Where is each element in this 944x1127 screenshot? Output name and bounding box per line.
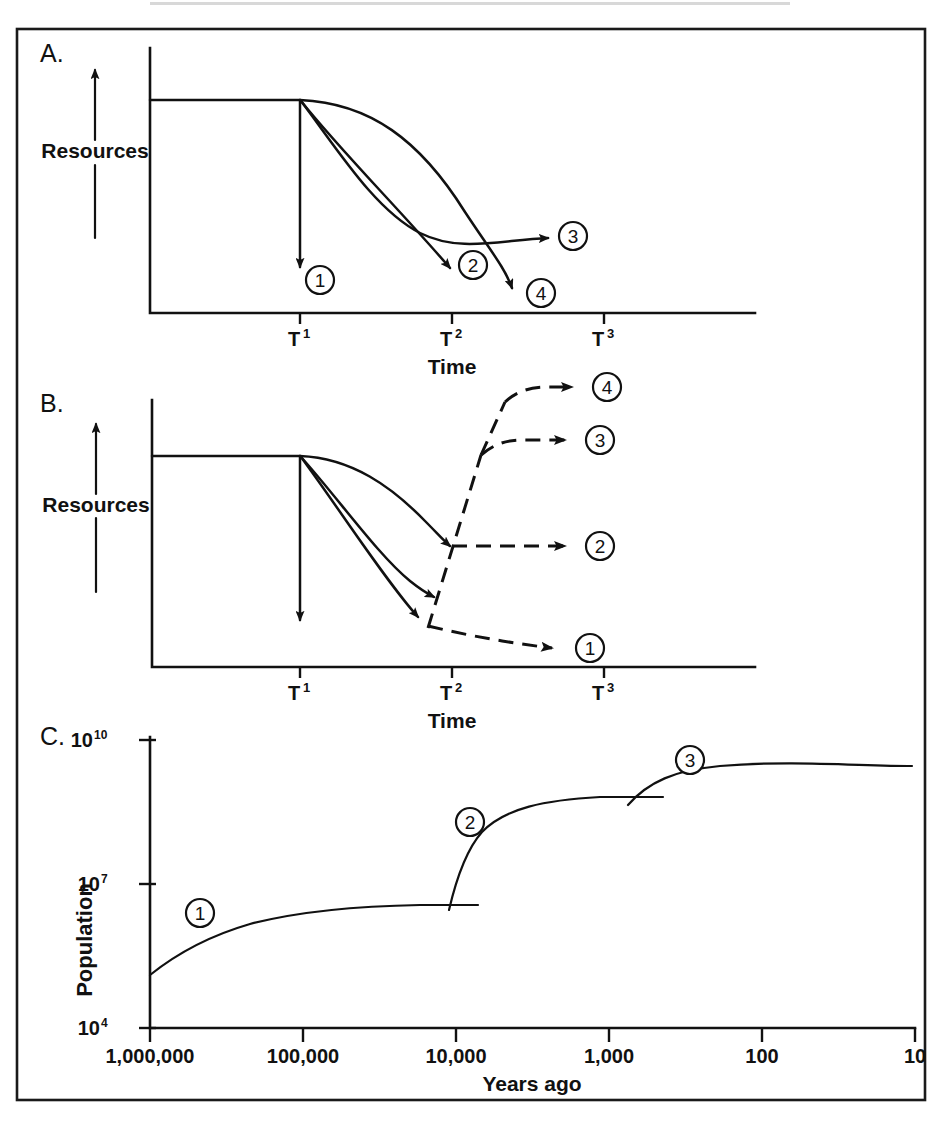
panel-b-callout-1: 1 <box>576 634 604 662</box>
panel-c-ylabel: Population <box>72 883 97 997</box>
svg-text:2: 2 <box>595 536 606 557</box>
panel-b-decline-steep <box>301 457 418 617</box>
panel-b-tick-label-t2: T 2 <box>440 680 462 704</box>
svg-text:10: 10 <box>78 873 100 895</box>
panel-b-tick-label-t3: T 3 <box>592 680 614 704</box>
scan-artifact <box>150 2 790 5</box>
panel-b-tick-label-t1: T 1 <box>288 680 310 704</box>
panel-c-xlabel-100: 100 <box>745 1045 778 1067</box>
svg-text:10: 10 <box>71 729 93 751</box>
svg-text:7: 7 <box>101 872 108 886</box>
panel-a-tick-label-t2: T 2 <box>440 326 462 350</box>
svg-text:3: 3 <box>685 750 696 771</box>
panel-c-callout-2: 2 <box>456 808 484 836</box>
panel-c: C. Population 10 10 10 7 10 4 1,000,000 <box>40 722 926 1095</box>
panel-a-tick-label-t1: T 1 <box>288 326 310 350</box>
panel-a-tick-label-t3: T 3 <box>592 326 614 350</box>
panel-c-xlabel-10: 10 <box>904 1045 926 1067</box>
svg-text:T: T <box>440 682 452 704</box>
svg-text:4: 4 <box>602 377 613 398</box>
panel-c-xlabel: Years ago <box>482 1072 581 1095</box>
panel-b-decline-shallow <box>300 456 450 546</box>
svg-text:1: 1 <box>195 903 206 924</box>
svg-text:T: T <box>440 328 452 350</box>
panel-b-axes <box>152 400 755 667</box>
panel-c-ylabel-1e7: 10 7 <box>78 872 108 895</box>
svg-text:10: 10 <box>94 728 108 742</box>
panel-b-callout-3: 3 <box>586 426 614 454</box>
panel-b-curve-4 <box>505 387 572 402</box>
panel-b-callout-4: 4 <box>593 373 621 401</box>
panel-b-callout-2: 2 <box>586 532 614 560</box>
svg-text:3: 3 <box>568 226 579 247</box>
svg-text:3: 3 <box>595 430 606 451</box>
svg-text:2: 2 <box>455 680 462 695</box>
panel-a-callout-2: 2 <box>459 251 487 279</box>
panel-c-xlabel-1000000: 1,000,000 <box>106 1045 195 1067</box>
panel-b-decline-mid <box>301 457 434 597</box>
svg-text:2: 2 <box>465 812 476 833</box>
svg-text:4: 4 <box>536 283 547 304</box>
panel-c-letter: C. <box>40 722 65 750</box>
panel-c-callout-1: 1 <box>186 899 214 927</box>
panel-b-ylabel: Resources <box>42 493 149 516</box>
svg-text:T: T <box>592 682 604 704</box>
panel-c-axes <box>150 737 915 1028</box>
panel-a-letter: A. <box>40 39 64 67</box>
panel-c-ylabel-1e4: 10 4 <box>78 1016 108 1039</box>
panel-a-axes <box>150 48 755 313</box>
panel-b: B. Resources T 1 T 2 T 3 Time <box>40 373 755 732</box>
svg-text:1: 1 <box>585 638 596 659</box>
panel-b-curve-1 <box>428 626 552 648</box>
svg-text:2: 2 <box>468 255 479 276</box>
panel-b-xlabel: Time <box>428 709 477 732</box>
panel-c-callout-3: 3 <box>676 746 704 774</box>
svg-text:T: T <box>592 328 604 350</box>
panel-a-ylabel: Resources <box>41 139 148 162</box>
svg-text:T: T <box>288 328 300 350</box>
svg-text:2: 2 <box>455 326 462 341</box>
panel-b-recovery-stem <box>428 455 481 628</box>
svg-text:10: 10 <box>78 1017 100 1039</box>
panel-c-xlabel-10000: 10,000 <box>425 1045 486 1067</box>
svg-text:3: 3 <box>607 680 614 695</box>
panel-c-xlabel-1000: 1,000 <box>584 1045 634 1067</box>
panel-a-callout-1: 1 <box>306 266 334 294</box>
scientific-figure: A. Resources T 1 T 2 T 3 Time <box>0 0 944 1127</box>
panel-c-ylabel-1e10: 10 10 <box>71 728 108 751</box>
panel-b-letter: B. <box>40 389 64 417</box>
panel-a-callout-3: 3 <box>559 222 587 250</box>
panel-a-callout-4: 4 <box>527 279 555 307</box>
svg-text:1: 1 <box>303 680 310 695</box>
panel-a: A. Resources T 1 T 2 T 3 Time <box>40 39 755 378</box>
panel-a-curve-3 <box>301 101 548 244</box>
svg-text:3: 3 <box>607 326 614 341</box>
panel-c-xlabel-100000: 100,000 <box>267 1045 339 1067</box>
svg-text:1: 1 <box>303 326 310 341</box>
svg-text:T: T <box>288 682 300 704</box>
panel-b-curve-3 <box>481 440 565 455</box>
panel-c-curve-3 <box>628 763 912 805</box>
svg-text:4: 4 <box>101 1016 108 1030</box>
panel-a-curve-2 <box>301 101 450 268</box>
panel-a-xlabel: Time <box>428 355 477 378</box>
svg-text:1: 1 <box>315 270 326 291</box>
figure-root: A. Resources T 1 T 2 T 3 Time <box>0 0 944 1127</box>
